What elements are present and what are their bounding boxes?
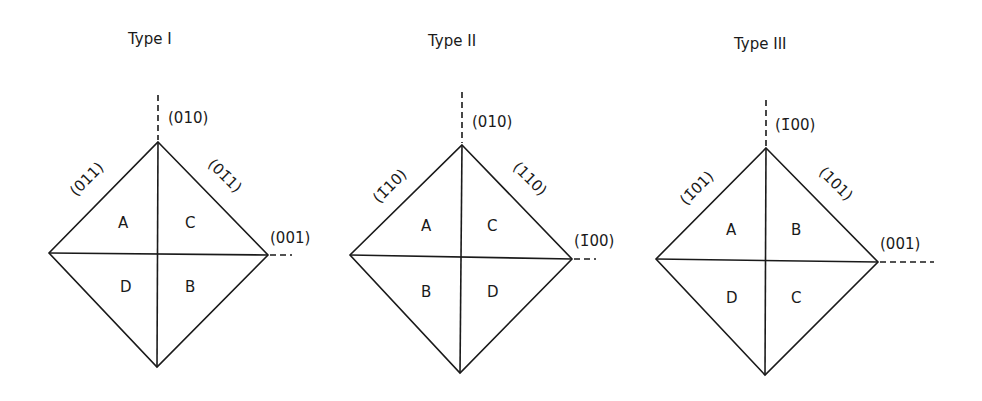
region-lower-left: D [726,289,738,307]
pole-label-top: (010) [472,113,512,131]
region-lower-left: B [421,283,431,301]
pole-label-right: (001) [270,229,310,247]
vertical-divider [765,148,766,375]
edge-label-upper-right: (101) [815,163,856,204]
pole-label-top: (1̄00) [775,116,815,134]
edge-label-upper-left: (011) [66,159,107,200]
pole-label-right: (001) [880,235,920,253]
edge-label-upper-left: (1̄10) [369,166,410,207]
region-lower-right: B [185,278,195,296]
panel-type-2: Type II (010) (1̄00) (1̄10) (110) A C B … [350,32,614,373]
pole-label-top: (010) [168,109,208,127]
vertical-divider [460,145,462,373]
edge-label-upper-right: (01̄1) [204,155,245,196]
panel-type-3: Type III (1̄00) (001) (1̄01) (101) A B D… [656,35,934,375]
panel-title: Type III [733,35,787,53]
region-lower-right: C [791,289,801,307]
region-upper-left: A [421,217,432,235]
region-upper-right: B [791,221,801,239]
region-upper-left: A [118,214,129,232]
horizontal-divider [656,259,878,262]
region-upper-right: C [185,214,195,232]
region-lower-right: D [487,283,499,301]
horizontal-divider [49,253,268,255]
panel-type-1: Type I (010) (001) (011) (01̄1) A C D B [49,30,310,367]
panel-title: Type I [127,30,172,48]
region-lower-left: D [120,278,132,296]
panel-title: Type II [427,32,476,50]
region-upper-left: A [726,221,737,239]
pole-label-right: (1̄00) [574,232,614,250]
diagram-canvas: Type I (010) (001) (011) (01̄1) A C D B … [0,0,982,401]
edge-label-upper-right: (110) [509,158,550,199]
region-upper-right: C [487,217,497,235]
